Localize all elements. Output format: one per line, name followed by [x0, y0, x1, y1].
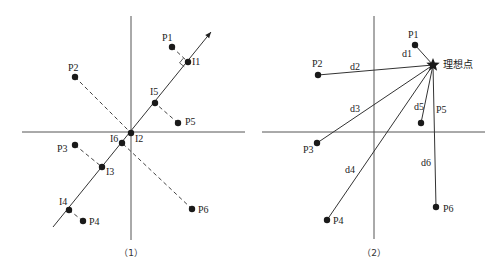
fig1-projection-i4: [66, 207, 72, 213]
fig1-point-p5: [175, 120, 181, 126]
fig1-perpendicular-p2: [75, 77, 131, 133]
diagram-svg: P1P2P3P4P5P6I1I2I3I4I5I6（1）d1d2d3d4d5d6P…: [0, 0, 499, 273]
fig1-label-p5: P5: [185, 116, 196, 127]
fig1-projection-i2: [128, 130, 134, 136]
fig1-label-i3: I3: [106, 166, 114, 177]
fig1-projection-i6: [119, 140, 125, 146]
fig1-projection-i1: [185, 59, 191, 65]
fig1-point-p2: [72, 74, 78, 80]
fig1-label-p1: P1: [162, 32, 173, 43]
fig2-label-d1: d1: [402, 48, 412, 59]
fig1-label-i4: I4: [59, 196, 67, 207]
fig2-distance-d2: [318, 65, 433, 75]
fig2-distance-d1: [415, 45, 433, 65]
fig2-label-p1: P1: [408, 29, 419, 40]
figure-canvas: P1P2P3P4P5P6I1I2I3I4I5I6（1）d1d2d3d4d5d6P…: [0, 0, 499, 273]
fig1-label-i5: I5: [150, 86, 158, 97]
ideal-point-label: 理想点: [443, 58, 473, 70]
fig2-label-d2: d2: [350, 61, 360, 72]
fig2-label-d4: d4: [345, 164, 355, 175]
fig2-point-p1: [412, 42, 418, 48]
fig1-label-i6: I6: [110, 133, 118, 144]
fig1-projection-i3: [99, 164, 105, 170]
fig2-point-p4: [324, 217, 330, 223]
fig1-label-p2: P2: [68, 62, 79, 73]
fig1-perpendicular-p6: [122, 143, 192, 209]
fig1-label-p3: P3: [57, 143, 68, 154]
fig1-point-p4: [80, 218, 86, 224]
fig2-label-d6: d6: [421, 157, 431, 168]
fig2-label-d3: d3: [350, 103, 360, 114]
fig2-label-p2: P2: [312, 58, 323, 69]
fig1-caption: （1）: [119, 248, 143, 258]
fig1-perpendicular-p3: [75, 145, 102, 167]
fig1-projection-i5: [152, 100, 158, 106]
fig1-point-p3: [72, 142, 78, 148]
fig2-point-p5: [418, 120, 424, 126]
fig1-point-p6: [189, 206, 195, 212]
fig1-point-p1: [169, 44, 175, 50]
fig2-label-p5: P5: [436, 104, 447, 115]
fig2-point-p2: [315, 72, 321, 78]
fig1-perpendicular-p1: [172, 47, 188, 62]
fig1-label-i2: I2: [135, 133, 143, 144]
fig2-point-p3: [314, 140, 320, 146]
fig2-distance-d6: [433, 65, 436, 207]
fig2-label-p6: P6: [443, 203, 454, 214]
fig2-distance-d4: [327, 65, 433, 220]
fig1-label-p6: P6: [198, 204, 209, 215]
fig2-point-p6: [433, 204, 439, 210]
fig1-label-i1: I1: [192, 56, 200, 67]
fig1-label-p4: P4: [89, 216, 100, 227]
fig2-label-p4: P4: [333, 215, 344, 226]
fig2-label-p3: P3: [303, 144, 314, 155]
fig1-perpendicular-p5: [155, 103, 178, 123]
fig2-label-d5: d5: [414, 101, 424, 112]
fig2-caption: （2）: [362, 248, 386, 258]
